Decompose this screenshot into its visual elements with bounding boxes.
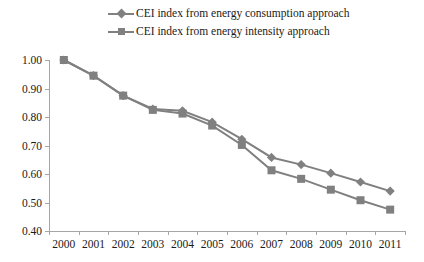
legend-entry-energy-consumption: CEI index from energy consumption approa… xyxy=(108,6,349,21)
series-line xyxy=(64,60,390,191)
square-data-marker xyxy=(268,166,276,174)
x-axis-label: 2006 xyxy=(230,238,253,250)
square-data-marker xyxy=(238,141,246,149)
legend-label-energy-intensity: CEI index from energy intensity approach xyxy=(136,25,330,38)
square-data-marker xyxy=(179,110,187,118)
y-axis-label: 1.00 xyxy=(22,54,42,66)
series-line xyxy=(64,60,390,210)
x-axis-label: 2004 xyxy=(171,238,194,250)
x-axis-label: 2008 xyxy=(290,238,313,250)
diamond-data-marker xyxy=(386,187,395,196)
x-axis-tick xyxy=(316,231,317,235)
y-axis-label: 0.40 xyxy=(22,225,42,237)
square-data-marker xyxy=(297,175,305,183)
square-data-marker xyxy=(149,106,157,114)
x-axis-tick xyxy=(375,231,376,235)
x-axis-tick xyxy=(197,231,198,235)
x-axis-label: 2001 xyxy=(82,238,105,250)
x-axis-tick xyxy=(168,231,169,235)
diamond-data-marker xyxy=(326,169,335,178)
y-axis-label: 0.50 xyxy=(22,197,42,209)
x-axis-tick xyxy=(138,231,139,235)
square-data-marker xyxy=(119,92,127,100)
square-data-marker xyxy=(90,72,98,80)
square-data-marker xyxy=(327,186,335,194)
x-axis-label: 2002 xyxy=(112,238,135,250)
square-data-marker xyxy=(357,196,365,204)
y-axis-tick xyxy=(45,174,49,175)
y-axis-label: 0.70 xyxy=(22,140,42,152)
y-axis-tick xyxy=(45,203,49,204)
y-axis-tick xyxy=(45,146,49,147)
x-axis-label: 2000 xyxy=(52,238,75,250)
x-axis-tick xyxy=(286,231,287,235)
y-axis-tick xyxy=(45,89,49,90)
x-axis-tick xyxy=(79,231,80,235)
cei-index-line-chart: CEI index from energy consumption approa… xyxy=(0,0,424,262)
x-axis-label: 2007 xyxy=(260,238,283,250)
x-axis-label: 2011 xyxy=(379,238,402,250)
y-axis-label: 0.90 xyxy=(22,83,42,95)
chart-legend: CEI index from energy consumption approa… xyxy=(108,6,349,39)
x-axis-tick xyxy=(227,231,228,235)
diamond-data-marker xyxy=(356,177,365,186)
x-axis-label: 2005 xyxy=(201,238,224,250)
diamond-data-marker xyxy=(267,153,276,162)
diamond-marker-icon xyxy=(108,8,134,20)
x-axis-tick xyxy=(108,231,109,235)
series-lines xyxy=(49,60,405,231)
square-data-marker xyxy=(60,56,68,64)
square-data-marker xyxy=(386,206,394,214)
diamond-data-marker xyxy=(297,160,306,169)
plot-area: 1.000.900.800.700.600.500.40200020012002… xyxy=(49,60,405,231)
x-axis-label: 2010 xyxy=(349,238,372,250)
square-data-marker xyxy=(208,122,216,130)
y-axis-tick xyxy=(45,60,49,61)
x-axis-tick xyxy=(257,231,258,235)
legend-label-energy-consumption: CEI index from energy consumption approa… xyxy=(136,7,349,20)
x-axis-label: 2009 xyxy=(319,238,342,250)
x-axis-tick xyxy=(405,231,406,235)
legend-entry-energy-intensity: CEI index from energy intensity approach xyxy=(108,24,349,39)
y-axis-label: 0.80 xyxy=(22,111,42,123)
x-axis-tick xyxy=(346,231,347,235)
x-axis-tick xyxy=(49,231,50,235)
x-axis-label: 2003 xyxy=(141,238,164,250)
square-marker-icon xyxy=(108,26,134,38)
y-axis-tick xyxy=(45,117,49,118)
y-axis-label: 0.60 xyxy=(22,168,42,180)
